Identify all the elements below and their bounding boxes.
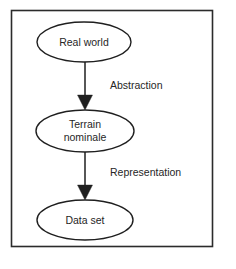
- node-real-world[interactable]: Real world: [37, 22, 131, 62]
- node-data-set-label: Data set: [65, 214, 104, 226]
- node-terrain-nominale[interactable]: Terrain nominale: [36, 110, 134, 152]
- node-data-set[interactable]: Data set: [37, 200, 133, 240]
- arrowhead-icon: [78, 185, 93, 200]
- node-terrain-nominale-label-line2: nominale: [64, 131, 107, 143]
- node-real-world-label: Real world: [59, 36, 109, 48]
- edge-abstraction: Abstraction: [78, 62, 163, 110]
- node-terrain-nominale-label-line1: Terrain: [69, 118, 101, 130]
- edge-representation-label: Representation: [110, 166, 181, 178]
- flowchart-diagram: Abstraction Representation Real world Te…: [0, 0, 236, 269]
- diagram-canvas: Abstraction Representation Real world Te…: [0, 0, 236, 269]
- edge-abstraction-label: Abstraction: [110, 79, 163, 91]
- arrowhead-icon: [78, 95, 93, 110]
- edge-representation: Representation: [78, 152, 182, 200]
